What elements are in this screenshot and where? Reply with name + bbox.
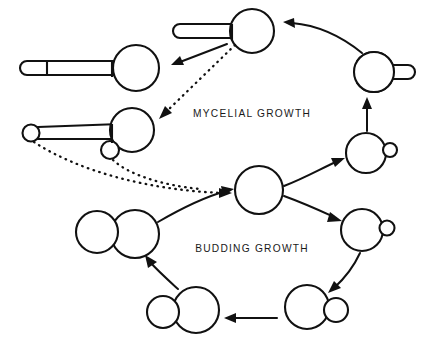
stage-yeast-cell — [235, 166, 283, 214]
bud — [380, 221, 395, 236]
cell-body — [113, 45, 159, 91]
cell-body — [235, 166, 283, 214]
hypha-tube — [38, 124, 120, 139]
cell-outline — [354, 52, 394, 92]
lateral-blastospore — [101, 141, 119, 159]
fungal-growth-cycle-diagram: MYCELIAL GROWTH BUDDING GROWTH — [0, 0, 439, 344]
cell-body — [285, 285, 329, 329]
terminal-blastospore — [23, 125, 40, 142]
cell-body — [341, 209, 383, 251]
bud — [147, 296, 179, 328]
budding-growth-label: BUDDING GROWTH — [195, 243, 309, 254]
daughter-cell — [76, 211, 118, 253]
bud — [383, 143, 397, 157]
hypha-tube — [20, 61, 124, 75]
bud — [324, 298, 348, 322]
mycelial-growth-label: MYCELIAL GROWTH — [193, 108, 311, 119]
stage-daughter-separating — [76, 210, 159, 258]
diagram-root: MYCELIAL GROWTH BUDDING GROWTH — [0, 0, 439, 344]
cell-body — [230, 9, 274, 53]
cell-body — [346, 133, 386, 173]
